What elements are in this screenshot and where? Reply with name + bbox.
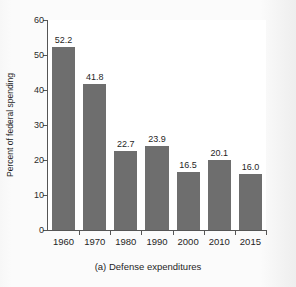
figure: Percent of federal spending 010203040506… (0, 0, 296, 287)
bar: 22.71980 (114, 151, 137, 230)
y-axis-tick-label: 60 (34, 16, 44, 25)
x-axis-tick-mark (141, 230, 142, 235)
y-axis-tick-label: 0 (39, 226, 44, 235)
y-axis-tick-label: 40 (34, 86, 44, 95)
x-axis-tick-label: 1970 (84, 237, 105, 247)
y-axis-tick-label: 30 (34, 121, 44, 130)
bar-value-label: 16.0 (242, 163, 260, 172)
bar: 52.21960 (52, 47, 75, 230)
x-axis-tick-mark (110, 230, 111, 235)
bar-value-label: 23.9 (148, 135, 166, 144)
figure-caption: (a) Defense expenditures (0, 262, 296, 272)
x-axis-tick-label: 1990 (146, 237, 167, 247)
bar-value-label: 20.1 (211, 149, 229, 158)
bar: 20.12010 (208, 160, 231, 230)
bar: 16.52000 (177, 172, 200, 230)
y-axis-tick-label: 10 (34, 191, 44, 200)
x-axis-tick-label: 2015 (240, 237, 261, 247)
x-axis-tick-label: 1980 (115, 237, 136, 247)
bar-value-label: 52.2 (55, 36, 73, 45)
x-axis-tick-mark (266, 230, 267, 235)
x-axis-tick-mark (204, 230, 205, 235)
y-axis-title: Percent of federal spending (6, 73, 15, 177)
bar-value-label: 41.8 (86, 73, 104, 82)
bar: 16.02015 (239, 174, 262, 230)
x-axis-tick-mark (235, 230, 236, 235)
x-axis-tick-mark (173, 230, 174, 235)
y-axis-tick-label: 20 (34, 156, 44, 165)
bar: 23.91990 (145, 146, 168, 230)
plot-area: 0102030405060 52.2196041.8197022.7198023… (47, 20, 266, 231)
bar: 41.81970 (83, 84, 106, 230)
x-axis-tick-label: 2010 (209, 237, 230, 247)
x-axis-tick-mark (79, 230, 80, 235)
x-axis-tick-label: 1960 (53, 237, 74, 247)
bar-value-label: 16.5 (179, 161, 197, 170)
y-axis-tick-label: 50 (34, 51, 44, 60)
x-axis-tick-label: 2000 (178, 237, 199, 247)
bar-value-label: 22.7 (117, 140, 135, 149)
